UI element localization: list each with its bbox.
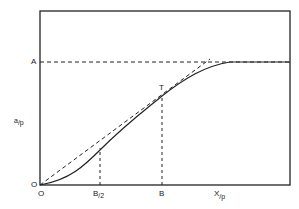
x-axis-label: X/p <box>214 191 225 199</box>
tangent-line <box>40 59 210 185</box>
x-label-origin: O <box>38 190 44 198</box>
x-label-B: B <box>159 190 164 198</box>
xlabel-den: /p <box>219 193 225 200</box>
y-label-origin: O <box>31 181 37 189</box>
x-label-b-half: B/2 <box>93 190 104 198</box>
ylabel-num: a <box>14 117 18 124</box>
b-half-sub: /2 <box>98 192 104 199</box>
ylabel-den: /p <box>18 119 24 126</box>
plot-frame <box>40 11 290 185</box>
point-label-T: T <box>159 84 164 92</box>
y-axis-label: a/p <box>14 119 24 126</box>
plot-canvas <box>0 0 299 209</box>
isotherm-curve <box>40 62 290 185</box>
y-label-A: A <box>31 58 36 66</box>
